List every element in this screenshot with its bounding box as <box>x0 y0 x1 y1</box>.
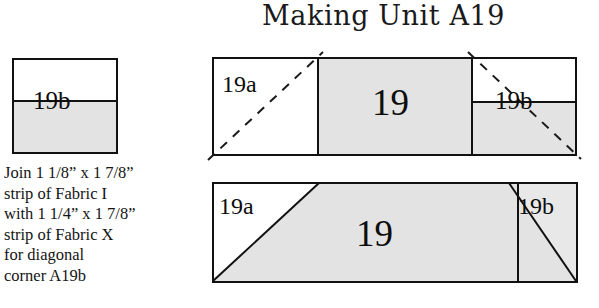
instruction-line: corner A19b <box>4 266 204 287</box>
top-label-19b: 19b <box>495 88 533 113</box>
top-label-19: 19 <box>372 84 409 121</box>
quilt-unit-instruction-figure: Making Unit A19 19b 19a 19 19b <box>0 0 599 308</box>
swatch-label-19b: 19b <box>33 88 71 113</box>
bottom-label-19a: 19a <box>219 194 254 218</box>
bottom-label-19b: 19b <box>518 194 554 218</box>
instruction-line: with 1 1/4” x 1 7/8” <box>4 204 204 225</box>
top-label-19a: 19a <box>222 72 257 96</box>
instruction-line: Join 1 1/8” x 1 7/8” <box>4 163 204 184</box>
page-title: Making Unit A19 <box>262 2 562 30</box>
instruction-text: Join 1 1/8” x 1 7/8” strip of Fabric I w… <box>4 163 204 287</box>
instruction-line: for diagonal <box>4 245 204 266</box>
instruction-line: strip of Fabric X <box>4 225 204 246</box>
instruction-line: strip of Fabric I <box>4 184 204 205</box>
bottom-label-19: 19 <box>356 215 393 252</box>
